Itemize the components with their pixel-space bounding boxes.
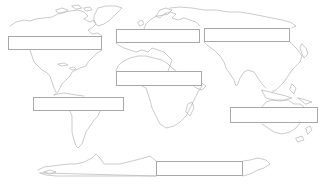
label-box-asia[interactable] <box>204 28 290 42</box>
africa-outline <box>116 56 202 128</box>
label-box-south-america[interactable] <box>33 97 124 111</box>
label-box-antarctica[interactable] <box>156 161 243 176</box>
north-america-outline <box>10 10 102 95</box>
new-zealand-outline <box>296 126 312 142</box>
label-box-europe[interactable] <box>116 29 200 43</box>
greenland-outline <box>94 6 122 26</box>
arctic-islands-outline <box>56 5 92 13</box>
label-box-oceania[interactable] <box>230 107 318 123</box>
label-box-north-america[interactable] <box>8 36 102 50</box>
label-box-africa[interactable] <box>116 71 202 86</box>
caribbean-outline <box>58 63 76 70</box>
japan-outline <box>300 44 308 58</box>
